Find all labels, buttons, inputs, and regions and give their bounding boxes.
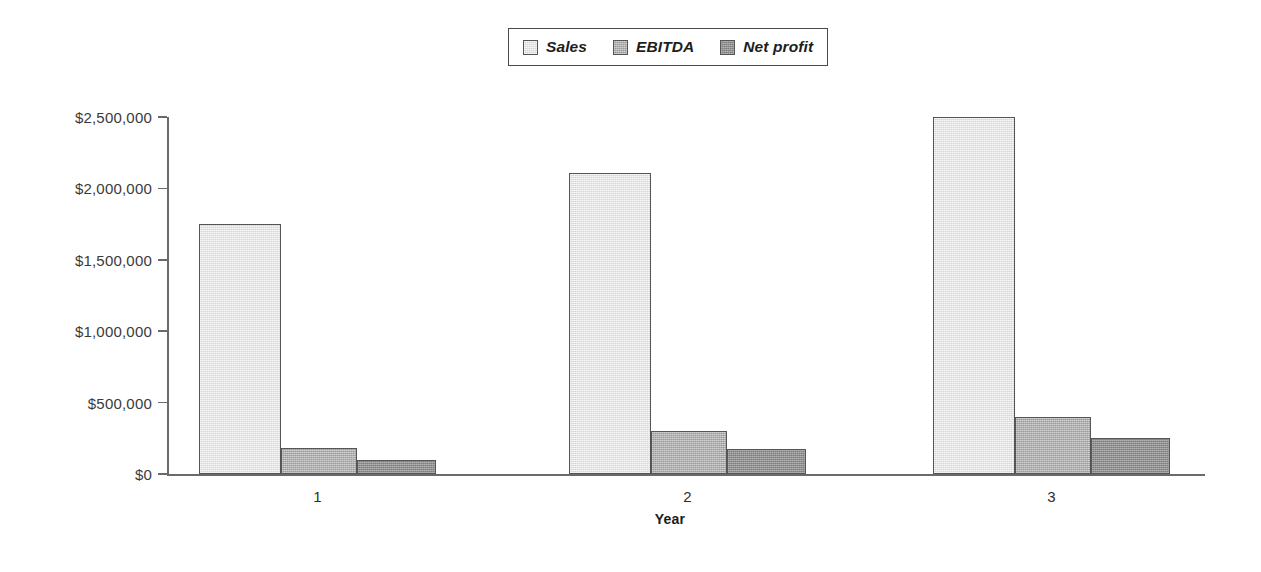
bar-sales-year-3: [933, 117, 1015, 474]
bar-ebitda-year-1: [281, 448, 357, 474]
x-axis-line: [167, 474, 1205, 476]
bar-ebitda-year-2: [651, 431, 727, 474]
x-axis-category-label-2: 2: [683, 488, 691, 505]
bar-net-profit-year-2: [727, 449, 806, 474]
x-axis-category-label-1: 1: [313, 488, 321, 505]
plot-area: $0$500,000$1,000,000$1,500,000$2,000,000…: [0, 0, 1261, 572]
bar-net-profit-year-3: [1091, 438, 1170, 474]
bar-sales-year-2: [569, 173, 651, 474]
bar-ebitda-year-3: [1015, 417, 1091, 474]
bar-sales-year-1: [199, 224, 281, 474]
chart-canvas: Sales EBITDA Net profit $0$500,000$1,000…: [0, 0, 1261, 572]
x-axis-title: Year: [655, 511, 685, 527]
bar-net-profit-year-1: [357, 460, 436, 474]
bars-layer: [0, 0, 1261, 474]
x-axis-category-label-3: 3: [1047, 488, 1055, 505]
